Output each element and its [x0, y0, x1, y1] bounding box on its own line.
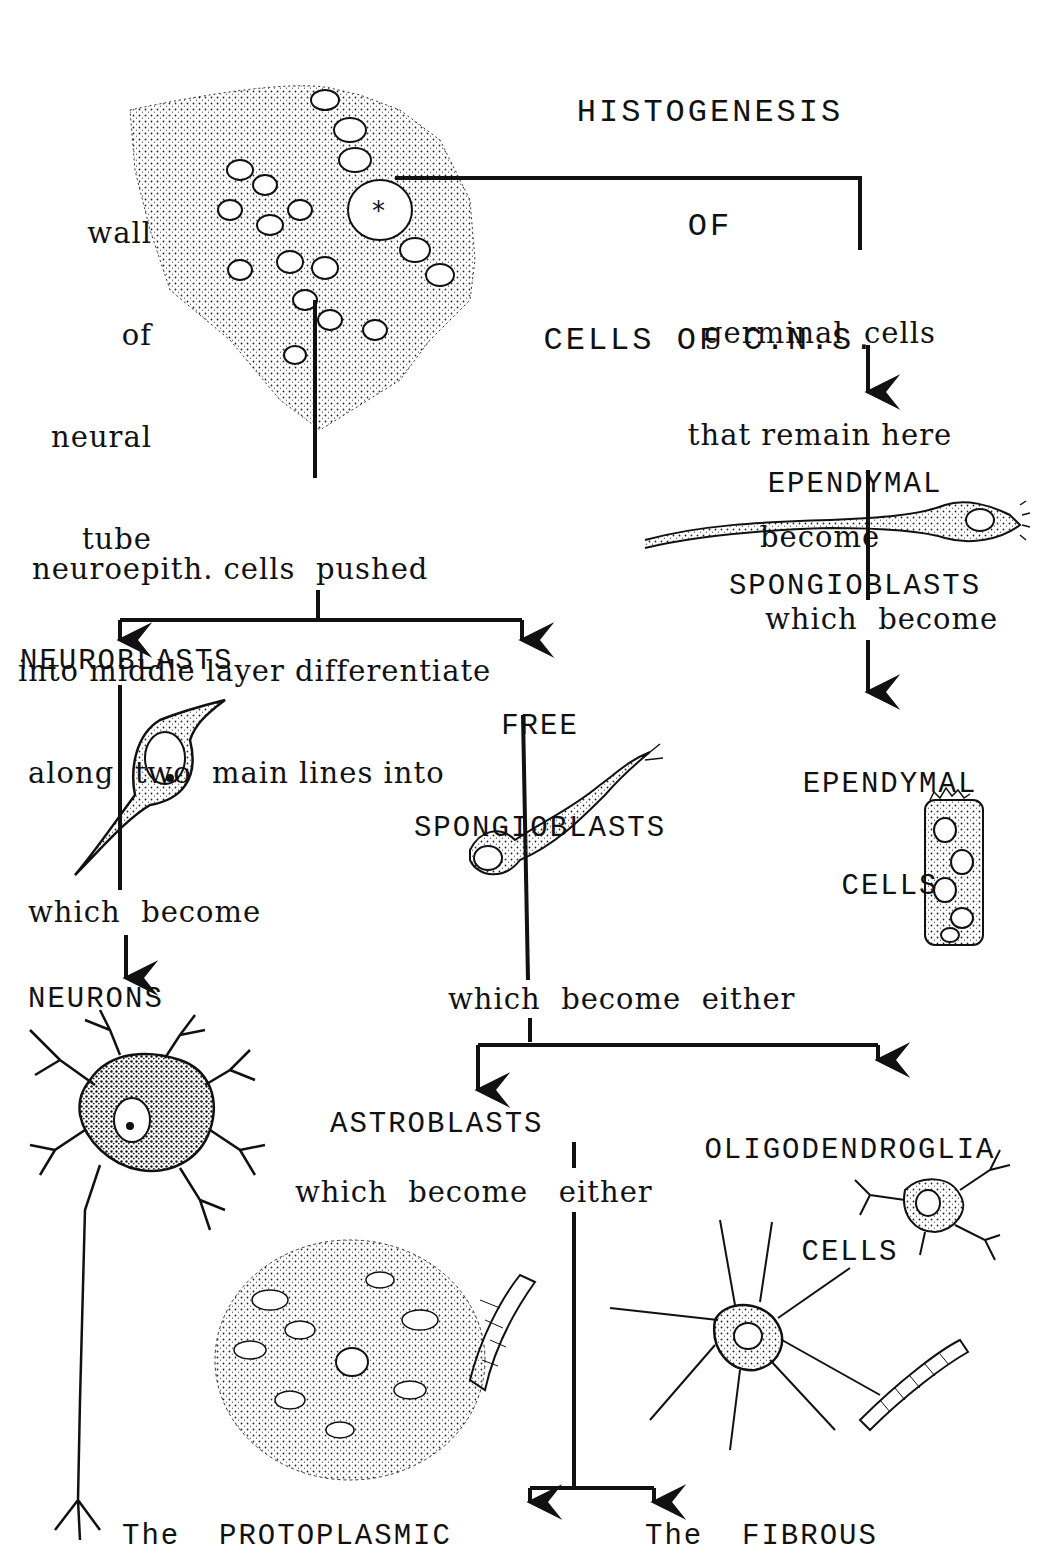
label-line: The PROTOPLASMIC	[122, 1520, 475, 1554]
label-line: SPONGIOBLASTS	[370, 812, 710, 846]
fibrous-astrocyte-label: The FIBROUS ASTROCYTE of white matter	[645, 1452, 973, 1568]
oligodendroglia-label: OLIGODENDROGLIA CELLS	[665, 1066, 1035, 1304]
label-line: EPENDYMAL	[690, 468, 1020, 502]
which-become-neurons: which become	[28, 895, 261, 929]
label-line: FREE	[370, 710, 710, 744]
free-spongioblasts-label: FREE SPONGIOBLASTS	[370, 642, 710, 880]
neuroblasts-label: NEUROBLASTS	[20, 645, 233, 679]
title-line-1: HISTOGENESIS	[500, 94, 920, 132]
ependymal-cells-label: EPENDYMAL CELLS	[750, 700, 1030, 938]
bushy-astrocyte-drawing	[215, 1240, 535, 1480]
text-line: neuroepith. cells pushed	[18, 552, 491, 586]
protoplasmic-astrocyte-label: The PROTOPLASMIC ASTROCYTE of gray matte…	[122, 1452, 475, 1568]
title-line-2: OF	[500, 208, 920, 246]
neural-tube-drawing: *	[130, 86, 475, 430]
label-line: neural	[22, 420, 152, 454]
label-line: The FIBROUS	[645, 1520, 973, 1554]
label-line: of	[22, 318, 152, 352]
label-line: wall	[22, 216, 152, 250]
neurons-label: NEURONS	[28, 983, 164, 1017]
label-line: CELLS	[665, 1236, 1035, 1270]
svg-text:*: *	[372, 196, 385, 226]
astro-which-become-either: which become either	[295, 1175, 653, 1209]
label-line: EPENDYMAL	[750, 768, 1030, 802]
label-line: OLIGODENDROGLIA	[665, 1134, 1035, 1168]
which-become-ependymal: which become	[765, 602, 998, 636]
text-line: germinal cells	[660, 316, 980, 350]
label-line: CELLS	[750, 870, 1030, 904]
astroblasts-label: ASTROBLASTS	[330, 1108, 543, 1142]
which-become-either: which become either	[448, 982, 795, 1016]
label-line: SPONGIOBLASTS	[690, 570, 1020, 604]
